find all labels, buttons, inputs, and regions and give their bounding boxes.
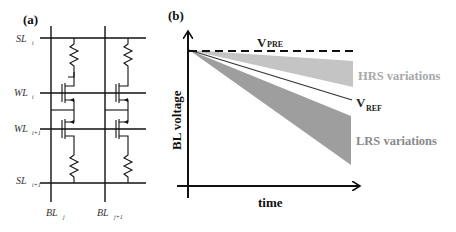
resistor-icon [124, 149, 132, 183]
svg-text:PRE: PRE [267, 40, 283, 49]
resistor-icon [70, 38, 78, 72]
svg-text:i+1: i+1 [32, 182, 41, 188]
lrs-variations-label: LRS variations [356, 134, 437, 148]
svg-text:j+1: j+1 [113, 214, 123, 220]
hrs-variations-band [189, 50, 353, 87]
svg-text:i: i [32, 40, 34, 46]
svg-text:BL: BL [46, 207, 58, 218]
cell-column-j1 [105, 38, 132, 183]
svg-text:SL: SL [16, 33, 27, 44]
y-axis-label: BL voltage [169, 90, 184, 150]
col-label-bl-j1: BL j+1 [97, 207, 123, 220]
resistor-icon [70, 149, 78, 183]
panel-a-label: (a) [23, 12, 38, 27]
col-label-bl-j: BL j [46, 207, 65, 220]
svg-text:V: V [356, 95, 366, 110]
cell-column-j [51, 38, 78, 183]
svg-text:BL: BL [97, 207, 109, 218]
vref-label: V REF [356, 95, 382, 113]
svg-text:j: j [62, 214, 65, 220]
row-label-wl-i1: WL i+1 [14, 123, 41, 136]
svg-text:SL: SL [16, 175, 27, 186]
svg-text:i+1: i+1 [32, 130, 41, 136]
x-axis-label: time [258, 195, 283, 210]
svg-text:i: i [32, 94, 34, 100]
figure: (a) SL i WL i WL i+1 SL i+1 BL j [0, 0, 456, 232]
hrs-variations-label: HRS variations [358, 69, 440, 83]
resistor-icon [124, 38, 132, 72]
row-label-sl-i: SL i [16, 33, 34, 46]
transistor-icon [116, 72, 128, 110]
panel-b-label: (b) [168, 8, 184, 23]
svg-text:V: V [257, 35, 267, 50]
row-label-wl-i: WL i [14, 87, 34, 100]
svg-text:REF: REF [366, 104, 382, 113]
svg-text:WL: WL [14, 123, 28, 134]
vpre-label: V PRE [257, 35, 283, 50]
panel-a: (a) SL i WL i WL i+1 SL i+1 BL j [14, 12, 146, 220]
transistor-icon [62, 72, 74, 110]
svg-text:WL: WL [14, 87, 28, 98]
row-label-sl-i1: SL i+1 [16, 175, 41, 188]
panel-b: (b) BL voltage time V PRE V REF HRS vari… [168, 8, 440, 210]
